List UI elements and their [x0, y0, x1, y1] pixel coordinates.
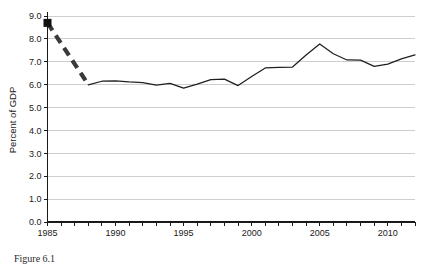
y-axis-title: Percent of GDP: [7, 87, 18, 154]
figure-caption: Figure 6.1: [14, 252, 55, 265]
y-tick-label: 3.0: [29, 149, 42, 159]
gridline-group: [48, 16, 416, 199]
y-tick-label: 9.0: [29, 11, 42, 21]
y-tick-label: 5.0: [29, 103, 42, 113]
start-point-marker: [44, 19, 52, 27]
x-axis-tick-labels: 198519901995200020052010: [37, 228, 397, 238]
y-tick-label: 6.0: [29, 80, 42, 90]
y-tick-label: 7.0: [29, 57, 42, 67]
y-tick-label: 2.0: [29, 171, 42, 181]
line-chart: 0.01.02.03.04.05.06.07.08.09.0 198519901…: [0, 0, 427, 265]
y-axis-tick-labels: 0.01.02.03.04.05.06.07.08.09.0: [29, 11, 42, 227]
x-tick-label: 2010: [378, 228, 398, 238]
y-tick-label: 8.0: [29, 34, 42, 44]
x-tick-label: 2000: [242, 228, 262, 238]
y-tick-label: 4.0: [29, 126, 42, 136]
x-tick-label: 2005: [310, 228, 330, 238]
x-tick-label: 1995: [174, 228, 194, 238]
x-tick-label: 1990: [106, 228, 126, 238]
data-line-projected: [48, 23, 89, 85]
y-tick-label: 1.0: [29, 194, 42, 204]
figure-container: 0.01.02.03.04.05.06.07.08.09.0 198519901…: [0, 0, 427, 265]
x-tick-label: 1985: [37, 228, 57, 238]
y-tick-label: 0.0: [29, 217, 42, 227]
data-line-actual: [88, 44, 415, 88]
